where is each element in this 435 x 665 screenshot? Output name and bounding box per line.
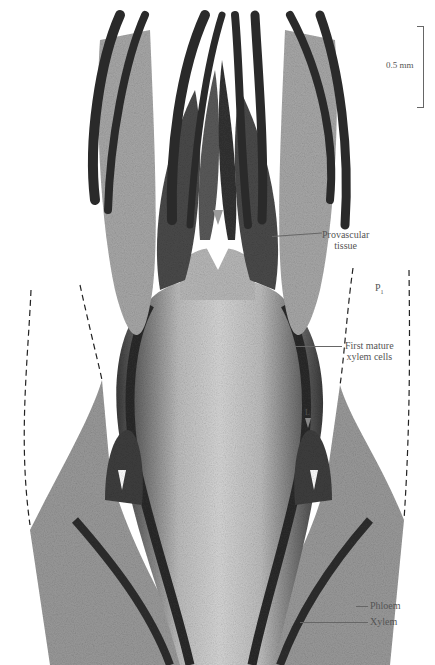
phloem-leader — [356, 606, 368, 607]
leaf-marker-label: L — [305, 407, 310, 418]
phloem-label: Phloem — [370, 600, 401, 611]
provascular-label: Provascular tissue — [322, 229, 369, 251]
first-mature-xylem-label: First mature xylem cells — [345, 340, 394, 362]
first-mature-leader — [295, 346, 342, 347]
p1-label: P1 — [375, 282, 384, 298]
arrow-marker — [213, 210, 223, 225]
xylem-label: Xylem — [370, 616, 397, 627]
left-axillary-bud — [105, 430, 143, 505]
scale-bar-label: 0.5 mm — [386, 60, 414, 71]
micrograph — [0, 0, 435, 665]
scale-bar — [417, 26, 424, 108]
xylem-leader — [300, 622, 368, 623]
